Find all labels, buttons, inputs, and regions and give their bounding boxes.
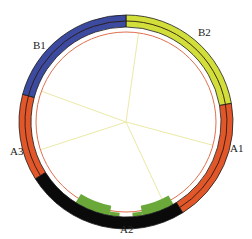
spoke-line [126, 122, 213, 145]
ring-segment-a1 [176, 103, 233, 212]
ring-segment-b2 [126, 15, 231, 106]
label-b2: B2 [198, 26, 211, 38]
label-a1: A1 [230, 142, 243, 154]
label-b1: B1 [33, 39, 46, 51]
spokes [40, 33, 213, 204]
spoke-line [126, 122, 164, 204]
label-a2: A2 [120, 223, 133, 235]
ring-segment-a3 [19, 94, 45, 178]
spoke-line [126, 33, 139, 122]
ring-diagram: B1 B2 A1 A2 A3 [0, 0, 252, 239]
spoke-line [40, 122, 126, 150]
spoke-line [41, 91, 126, 122]
label-a3: A3 [10, 145, 24, 157]
ring-segment-b1 [23, 15, 126, 97]
